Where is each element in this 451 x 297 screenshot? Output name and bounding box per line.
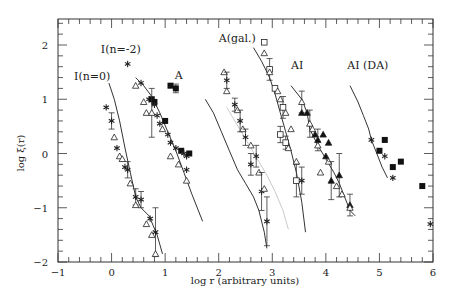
y-tick-label: 0 bbox=[42, 149, 48, 160]
model-curve bbox=[109, 83, 163, 254]
filled-triangle-marker bbox=[312, 131, 318, 137]
filled-triangle-marker bbox=[336, 172, 342, 178]
open-square-marker bbox=[261, 39, 267, 45]
y-tick-label: 1 bbox=[42, 94, 48, 105]
open-triangle-marker bbox=[288, 126, 294, 132]
asterisk-marker bbox=[147, 215, 153, 221]
open-square-marker bbox=[280, 105, 286, 111]
y-tick-label: −2 bbox=[33, 257, 48, 268]
open-square-marker bbox=[278, 132, 284, 138]
asterisk-marker bbox=[224, 77, 230, 83]
panel-label: I(n=-2) bbox=[101, 43, 141, 56]
panel-label: AI (DA) bbox=[346, 59, 388, 72]
y-axis-title: log ξ(r) bbox=[15, 134, 26, 171]
filled-square-marker bbox=[419, 183, 425, 189]
asterisk-marker bbox=[390, 175, 396, 181]
x-tick-label: 4 bbox=[323, 267, 329, 278]
filled-square-marker bbox=[382, 137, 388, 143]
open-triangle-marker bbox=[183, 177, 189, 183]
asterisk-marker bbox=[428, 221, 434, 227]
asterisk-marker bbox=[243, 134, 249, 140]
asterisk-marker bbox=[248, 161, 254, 167]
open-triangle-marker bbox=[143, 221, 149, 227]
open-triangle-marker bbox=[333, 183, 339, 189]
panel-label: A(gal.) bbox=[218, 32, 256, 45]
model-curve bbox=[227, 107, 289, 229]
x-tick-label: 0 bbox=[108, 267, 114, 278]
open-triangle-marker bbox=[132, 82, 138, 88]
open-triangle-marker bbox=[141, 99, 147, 105]
x-tick-label: 5 bbox=[376, 267, 382, 278]
asterisk-marker bbox=[299, 177, 305, 183]
open-triangle-marker bbox=[149, 110, 155, 116]
open-square-marker bbox=[294, 178, 300, 184]
y-tick-label: −1 bbox=[33, 203, 48, 214]
open-triangle-marker bbox=[307, 120, 313, 126]
open-triangle-marker bbox=[293, 158, 299, 164]
asterisk-marker bbox=[133, 194, 139, 200]
asterisk-marker bbox=[382, 153, 388, 159]
filled-square-marker bbox=[376, 148, 382, 154]
filled-square-marker bbox=[398, 159, 404, 165]
model-curves bbox=[109, 48, 388, 254]
open-triangle-marker bbox=[167, 153, 173, 159]
asterisk-marker bbox=[237, 118, 243, 124]
filled-square-marker bbox=[390, 164, 396, 170]
asterisk-marker bbox=[138, 196, 144, 202]
panel-label: I(n=0) bbox=[74, 70, 110, 83]
y-tick-label: 2 bbox=[42, 40, 48, 51]
open-triangle-marker bbox=[299, 99, 305, 105]
open-triangle-marker bbox=[315, 142, 321, 148]
open-triangle-marker bbox=[339, 191, 345, 197]
asterisk-marker bbox=[114, 145, 120, 151]
open-triangle-marker bbox=[111, 134, 117, 140]
asterisk-marker bbox=[264, 218, 270, 224]
filled-triangle-marker bbox=[320, 131, 326, 137]
x-tick-label: 1 bbox=[162, 267, 168, 278]
correlation-function-chart: −10123456−2−1012 I(n=0)I(n=-2)AA(gal.)AI… bbox=[0, 0, 451, 297]
open-triangle-marker bbox=[152, 251, 158, 257]
asterisk-marker bbox=[125, 61, 131, 67]
asterisk-marker bbox=[369, 137, 375, 143]
x-axis-title: log r (arbitrary units) bbox=[191, 275, 300, 286]
asterisk-marker bbox=[157, 120, 163, 126]
filled-triangle-marker bbox=[328, 177, 334, 183]
model-curve bbox=[350, 86, 388, 178]
asterisk-marker bbox=[184, 167, 190, 173]
open-square-marker bbox=[283, 140, 289, 146]
filled-square-marker bbox=[168, 83, 174, 89]
model-curve bbox=[136, 78, 203, 222]
panel-label: A bbox=[174, 69, 184, 82]
x-tick-label: −1 bbox=[51, 267, 66, 278]
filled-square-marker bbox=[162, 118, 168, 124]
panel-label: AI bbox=[290, 59, 303, 72]
asterisk-marker bbox=[232, 101, 238, 107]
open-triangle-marker bbox=[261, 50, 267, 56]
asterisk-marker bbox=[103, 104, 109, 110]
filled-triangle-marker bbox=[325, 139, 331, 145]
open-triangle-marker bbox=[317, 169, 323, 175]
panel-labels: I(n=0)I(n=-2)AA(gal.)AIAI (DA) bbox=[74, 32, 388, 83]
filled-square-marker bbox=[186, 151, 192, 157]
x-tick-label: 6 bbox=[430, 267, 436, 278]
filled-square-marker bbox=[173, 85, 179, 91]
asterisk-marker bbox=[109, 118, 115, 124]
